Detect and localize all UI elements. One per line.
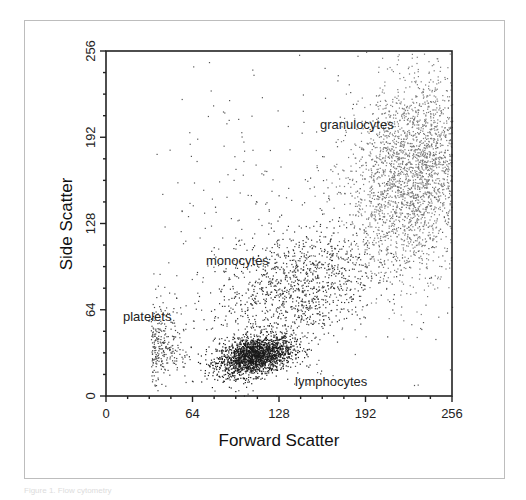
x-tick-label: 0 bbox=[102, 406, 109, 421]
y-tick-label: 0 bbox=[83, 392, 98, 399]
y-tick-label: 256 bbox=[83, 40, 98, 62]
axes: 064128192256064128192256 bbox=[83, 40, 463, 421]
label-platelets: platelets bbox=[123, 309, 172, 324]
y-axis-title: Side Scatter bbox=[57, 177, 76, 270]
y-tick-label: 192 bbox=[83, 126, 98, 148]
x-tick-label: 256 bbox=[441, 406, 463, 421]
scatter-plot: 064128192256064128192256 Side Scatter Fo… bbox=[0, 0, 526, 500]
data-points bbox=[148, 52, 453, 397]
population-granulocytes bbox=[313, 52, 453, 340]
population-platelets bbox=[151, 289, 192, 392]
x-tick-label: 128 bbox=[268, 406, 290, 421]
x-axis-title: Forward Scatter bbox=[219, 431, 340, 450]
figure-caption: Figure 1. Flow cytometry bbox=[24, 486, 112, 495]
y-tick-label: 128 bbox=[83, 213, 98, 235]
x-tick-label: 64 bbox=[185, 406, 199, 421]
label-lymphocytes: lymphocytes bbox=[295, 374, 368, 389]
label-monocytes: monocytes bbox=[206, 253, 269, 268]
label-granulocytes: granulocytes bbox=[320, 117, 394, 132]
y-tick-label: 64 bbox=[83, 303, 98, 317]
x-tick-label: 192 bbox=[355, 406, 377, 421]
